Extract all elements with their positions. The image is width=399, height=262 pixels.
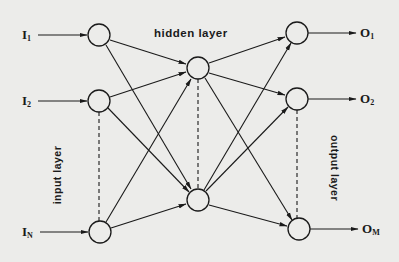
input-label-2: I2 (22, 94, 31, 109)
neural-network-diagram: I1 I2 IN O1 O2 OM hidden layer input lay… (0, 0, 399, 262)
input-layer-label: input layer (52, 146, 63, 205)
hidden-node-bottom (187, 189, 209, 211)
hidden-node-top (187, 57, 209, 79)
output-label-1: O1 (360, 26, 374, 41)
input-hidden-connections (106, 40, 191, 228)
output-node-2 (286, 88, 308, 110)
input-label-1: I1 (22, 28, 31, 43)
hidden-output-connections (204, 37, 292, 226)
output-label-2: O2 (360, 92, 374, 107)
input-label-n: IN (22, 225, 33, 240)
output-layer-label: output layer (330, 135, 341, 201)
input-node-n (89, 221, 111, 243)
input-node-1 (88, 24, 110, 46)
hidden-layer-label: hidden layer (154, 28, 228, 40)
output-node-m (288, 218, 310, 240)
output-node-1 (286, 22, 308, 44)
output-label-m: OM (362, 222, 380, 237)
input-arrows (38, 35, 88, 232)
input-node-2 (88, 90, 110, 112)
